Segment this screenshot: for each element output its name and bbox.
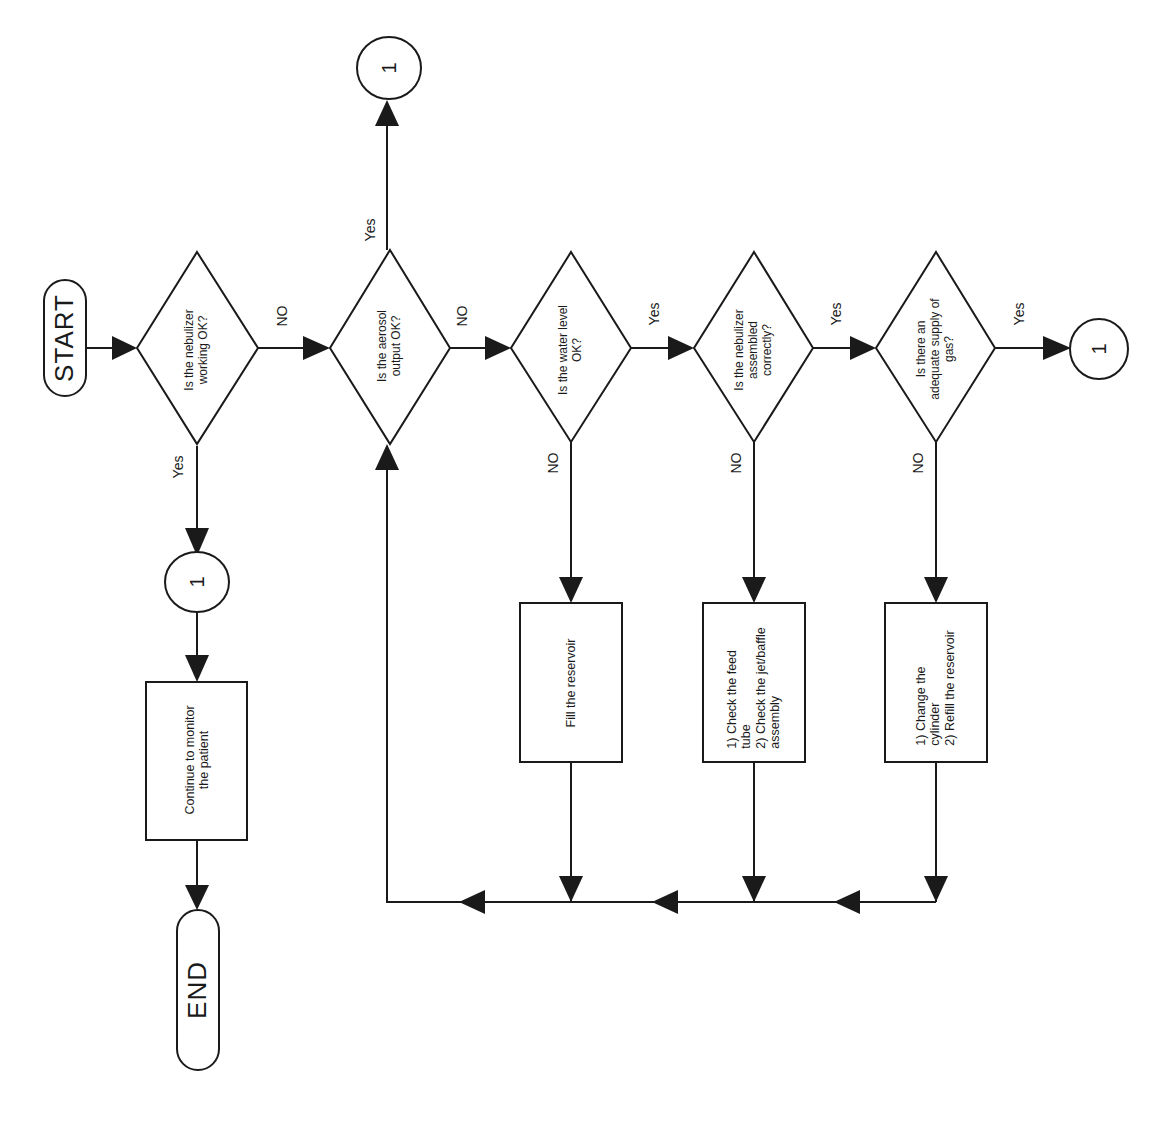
edge-label-d3-yes: Yes (646, 303, 662, 326)
arrow-left-icon (459, 890, 485, 914)
arrow-down-icon (559, 876, 583, 902)
edge-label-d2-no: NO (454, 306, 470, 327)
end-label: END (183, 961, 213, 1019)
arrow-up-icon (375, 444, 399, 470)
edge-label-d4-yes: Yes (828, 303, 844, 326)
arrow-right-icon (668, 336, 694, 360)
arrow-left-icon (834, 890, 860, 914)
edge-label-d4-no: NO (728, 453, 744, 474)
decision-assembled-correctly-text: Is the nebulizer assembled correctly? (733, 309, 774, 390)
edge-label-d5-yes: Yes (1011, 303, 1027, 326)
flowchart-canvas (0, 0, 1158, 1127)
arrow-right-icon (303, 336, 330, 360)
decision-aerosol-output-text: Is the aerosol output OK? (376, 310, 404, 382)
arrow-down-icon (742, 577, 766, 603)
decision-water-level-text: Is the water level OK? (557, 305, 585, 395)
edge-label-d1-yes: Yes (170, 456, 186, 479)
edge-label-d5-no: NO (910, 453, 926, 474)
arrow-left-icon (652, 890, 678, 914)
decision-nebulizer-working-text: Is the nebulizer working OK? (183, 309, 211, 390)
arrow-down-icon (742, 876, 766, 902)
connector-top-label: 1 (378, 62, 401, 73)
arrow-down-icon (924, 577, 948, 603)
process-change-cylinder-text: 1) Change the cylinder 2) Refill the res… (914, 630, 957, 745)
arrow-up-icon (375, 100, 399, 126)
start-label: START (50, 294, 80, 382)
edge-label-d3-no: NO (545, 453, 561, 474)
edge-label-d2-yes: Yes (362, 219, 378, 242)
arrow-down-icon (185, 655, 209, 682)
process-check-assembly-text: 1) Check the feed tube 2) Check the jet/… (725, 627, 783, 748)
arrow-right-icon (1043, 336, 1071, 360)
connector-right-label: 1 (1088, 343, 1111, 354)
connector-left-label: 1 (186, 576, 209, 587)
arrow-right-icon (850, 336, 876, 360)
process-continue-monitor-text: Continue to monitor the patient (183, 705, 212, 814)
arrow-down-icon (185, 885, 209, 910)
edge-label-d1-no: NO (274, 306, 290, 327)
decision-gas-supply-text: Is there an adequate supply of gas? (915, 298, 956, 399)
arrow-right-icon (112, 336, 137, 360)
arrow-down-icon (924, 876, 948, 902)
arrow-right-icon (485, 336, 511, 360)
arrow-down-icon (559, 577, 583, 603)
process-fill-reservoir-text: Fill the reservoir (564, 639, 578, 728)
edge-loop-back-d2 (387, 460, 936, 902)
